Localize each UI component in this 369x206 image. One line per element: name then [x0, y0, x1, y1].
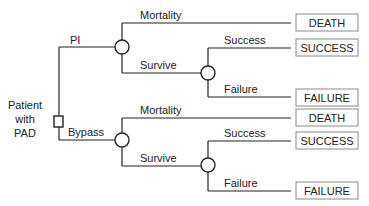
- bypass-mortality-label: Mortality: [140, 104, 182, 116]
- root-label-line-1: Patient: [8, 99, 42, 111]
- bypass-success-label: Success: [224, 127, 266, 139]
- terminal-label-pi-failure: FAILURE: [304, 92, 350, 104]
- bypass-failure-label: Failure: [224, 177, 258, 189]
- pi-survive-label: Survive: [140, 59, 177, 71]
- root-label-line-3: PAD: [14, 127, 36, 139]
- branch-label-bypass: Bypass: [68, 126, 105, 138]
- terminal-label-bypass-success: SUCCESS: [300, 135, 353, 147]
- chance-node-pi: [115, 40, 129, 54]
- terminal-label-bypass-death: DEATH: [309, 112, 346, 124]
- terminal-label-bypass-failure: FAILURE: [304, 185, 350, 197]
- decision-tree-diagram: Patient with PAD PI Bypass Mortality Sur…: [0, 0, 369, 206]
- pi-mortality-label: Mortality: [140, 9, 182, 21]
- pi-failure-label: Failure: [224, 83, 258, 95]
- pi-success-label: Success: [224, 34, 266, 46]
- chance-node-bypass-survive: [201, 158, 215, 172]
- chance-node-pi-survive: [201, 66, 215, 80]
- chance-node-bypass: [115, 133, 129, 147]
- branch-label-pi: PI: [70, 34, 80, 46]
- terminal-label-pi-death: DEATH: [309, 17, 346, 29]
- bypass-survive-label: Survive: [140, 152, 177, 164]
- root-label-line-2: with: [14, 113, 35, 125]
- terminal-label-pi-success: SUCCESS: [300, 42, 353, 54]
- decision-node-square: [54, 116, 63, 127]
